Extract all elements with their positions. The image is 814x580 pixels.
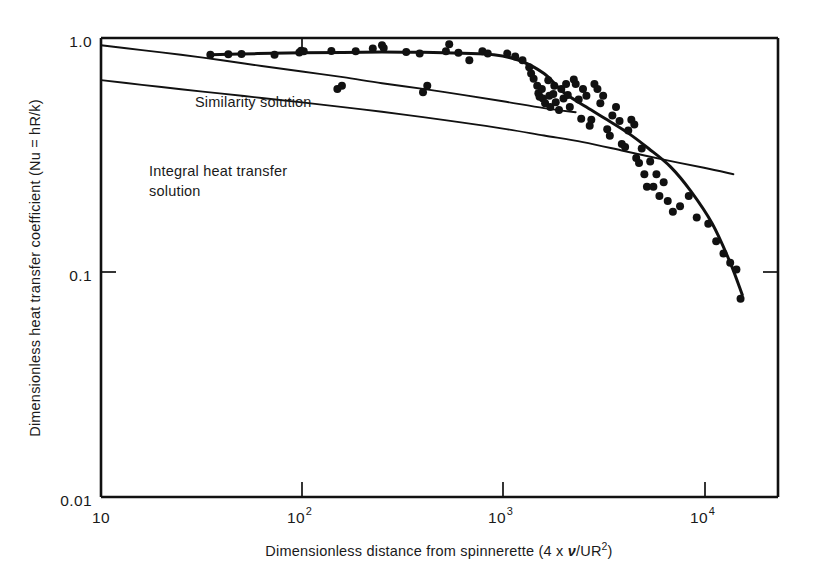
data-point [271, 51, 279, 59]
data-point [596, 99, 604, 107]
data-point [630, 120, 638, 128]
data-point [564, 91, 572, 99]
data-point [352, 47, 360, 55]
data-point [616, 117, 624, 125]
data-point [640, 170, 648, 178]
data-point [587, 116, 595, 124]
x-tick-label-1e4-mantissa: 10 [690, 509, 708, 526]
data-point [445, 40, 453, 48]
x-axis-title-prefix: Dimensionless distance from spinnerette … [265, 543, 567, 559]
data-point [582, 92, 590, 100]
data-point [237, 50, 245, 58]
svg-text:Dimensionless distance from sp: Dimensionless distance from spinnerette … [265, 540, 612, 559]
data-point [669, 208, 677, 216]
data-point [300, 47, 308, 55]
data-point [419, 88, 427, 96]
data-point [693, 214, 701, 222]
data-point [511, 53, 519, 61]
data-point [655, 192, 663, 200]
data-point [638, 145, 646, 153]
integral-solution-label-line2: solution [149, 183, 201, 199]
data-point [416, 50, 424, 58]
data-point [599, 92, 607, 100]
data-point [676, 202, 684, 210]
x-tick-label-1e4-exponent: 4 [709, 505, 716, 517]
data-point [518, 56, 526, 64]
x-axis-title-mid: /UR [576, 543, 602, 559]
data-point [555, 106, 563, 114]
y-tick-label-0.1: 0.1 [69, 267, 92, 284]
x-axis-title-suffix: ) [608, 543, 613, 559]
data-point [503, 50, 511, 58]
data-point [562, 80, 570, 88]
x-tick-label-1e1: 10 [92, 509, 110, 526]
data-point [454, 49, 462, 57]
data-point [606, 132, 614, 140]
y-axis-title: Dimensionless heat transfer coefficient … [27, 99, 43, 437]
data-point [704, 220, 712, 228]
data-point [402, 48, 410, 56]
data-point [552, 98, 560, 106]
data-point [206, 51, 214, 59]
data-point [621, 143, 629, 151]
data-point [327, 47, 335, 55]
data-point [685, 192, 693, 200]
data-point [538, 85, 546, 93]
x-tick-label-1e3-exponent: 3 [507, 505, 514, 517]
data-point [660, 178, 668, 186]
data-point [338, 82, 346, 90]
data-point [664, 197, 672, 205]
data-point [224, 50, 232, 58]
data-point [575, 95, 583, 103]
figure-container: 1.0 0.1 0.01 10 10 2 10 3 10 4 Similarit… [0, 0, 814, 580]
y-tick-label-0.01: 0.01 [60, 492, 92, 509]
data-point [544, 76, 552, 84]
data-point [369, 45, 377, 53]
x-axis-title: Dimensionless distance from spinnerette … [265, 540, 612, 559]
x-tick-label-1e2-mantissa: 10 [287, 509, 305, 526]
data-point [577, 115, 585, 123]
data-point [612, 103, 620, 111]
x-tick-label-1e2-exponent: 2 [306, 505, 313, 517]
data-point [566, 103, 574, 111]
data-point [549, 90, 557, 98]
data-point [484, 50, 492, 58]
data-point [530, 75, 538, 83]
data-point [380, 44, 388, 52]
data-point [737, 295, 745, 303]
data-point [624, 127, 632, 135]
data-point [646, 157, 654, 165]
data-point [550, 82, 558, 90]
integral-solution-label-line1: Integral heat transfer [149, 163, 287, 179]
data-point [608, 111, 616, 119]
data-point [719, 250, 727, 258]
data-point [572, 80, 580, 88]
data-point [423, 82, 431, 90]
x-axis-title-nu: ν [568, 543, 576, 559]
data-point [579, 85, 587, 93]
x-tick-label-1e3-mantissa: 10 [488, 509, 506, 526]
similarity-solution-label: Similarity solution [195, 94, 312, 110]
data-point [649, 183, 657, 191]
data-point [712, 237, 720, 245]
data-point [593, 85, 601, 93]
data-point [732, 266, 740, 274]
data-point [635, 159, 643, 167]
data-point [726, 259, 734, 267]
data-point [465, 56, 473, 64]
scatter-chart: 1.0 0.1 0.01 10 10 2 10 3 10 4 Similarit… [0, 0, 814, 580]
data-point [652, 170, 660, 178]
x-tick-label-1e1-mantissa: 10 [92, 509, 110, 526]
data-point [442, 47, 450, 55]
y-tick-label-1.0: 1.0 [69, 33, 92, 50]
